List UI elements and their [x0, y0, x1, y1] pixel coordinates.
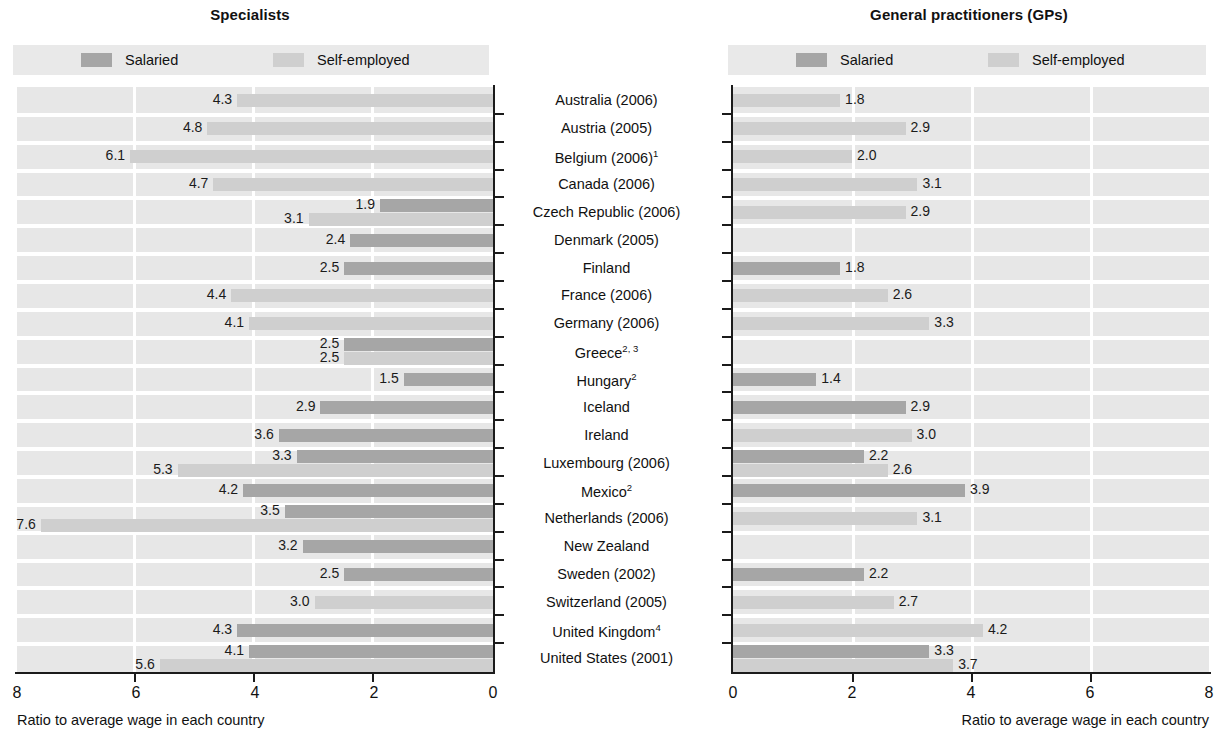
category-tick — [722, 475, 731, 477]
country-label: Finland — [500, 260, 713, 276]
row-separator — [17, 280, 493, 284]
axis-number-0: 0 — [489, 684, 498, 702]
bar-value-label: 4.2 — [988, 623, 1007, 636]
bar-value-label: 3.0 — [917, 428, 936, 441]
bar-self — [733, 464, 888, 477]
axis-tick-4 — [971, 673, 973, 682]
bar-salaried — [297, 450, 493, 463]
axis-number-2: 2 — [370, 684, 379, 702]
country-label: Switzerland (2005) — [500, 594, 713, 610]
bar-value-label: 2.6 — [893, 288, 912, 301]
bar-self — [344, 352, 493, 365]
self-employed-swatch-icon — [988, 53, 1019, 67]
bar-self — [178, 464, 493, 477]
bar-salaried — [733, 450, 864, 463]
category-tick — [722, 308, 731, 310]
bar-self — [733, 206, 906, 219]
category-tick — [722, 196, 731, 198]
axis-number-6: 6 — [132, 684, 141, 702]
bar-salaried — [344, 568, 493, 581]
bar-salaried — [285, 505, 493, 518]
specialists-axis-ticks: 86420 — [17, 684, 493, 704]
bar-value-label: 1.9 — [355, 198, 374, 211]
bar-value-label: 3.7 — [958, 658, 977, 671]
category-tick — [722, 169, 731, 171]
legend-label-salaried: Salaried — [840, 52, 893, 68]
bar-value-label: 3.1 — [922, 177, 941, 190]
bar-salaried — [320, 401, 493, 414]
axis-number-8: 8 — [1205, 684, 1214, 702]
country-footnote-marker: 4 — [655, 622, 660, 633]
gridline-4 — [252, 87, 255, 672]
bar-salaried — [279, 429, 493, 442]
bar-self — [41, 519, 493, 532]
bar-value-label: 4.3 — [213, 623, 232, 636]
bar-salaried — [249, 645, 493, 658]
axis-number-4: 4 — [251, 684, 260, 702]
bar-value-label: 4.3 — [213, 93, 232, 106]
category-tick — [722, 642, 731, 644]
country-label: Ireland — [500, 427, 713, 443]
legend-label-self-employed: Self-employed — [1032, 52, 1125, 68]
category-tick — [722, 364, 731, 366]
bar-value-label: 3.3 — [272, 449, 291, 462]
bar-value-label: 3.3 — [934, 644, 953, 657]
bar-value-label: 2.5 — [320, 351, 339, 364]
bar-value-label: 3.1 — [284, 212, 303, 225]
bar-value-label: 5.6 — [135, 658, 154, 671]
row-separator — [17, 559, 493, 563]
country-label: United Kingdom4 — [500, 622, 713, 640]
bar-value-label: 2.6 — [893, 463, 912, 476]
row-separator — [17, 252, 493, 256]
gridline-6 — [133, 87, 136, 672]
gridline-4 — [971, 87, 974, 672]
legend-label-salaried: Salaried — [125, 52, 178, 68]
category-tick — [722, 531, 731, 533]
bar-salaried — [404, 373, 493, 386]
category-tick — [722, 113, 731, 115]
country-label: Netherlands (2006) — [500, 510, 713, 526]
bar-self — [213, 178, 493, 191]
bar-value-label: 4.2 — [219, 483, 238, 496]
gridline-6 — [1090, 87, 1093, 672]
bar-self — [733, 122, 906, 135]
bar-self — [315, 596, 494, 609]
country-label: France (2006) — [500, 287, 713, 303]
bar-self — [733, 317, 929, 330]
country-footnote-marker: 1 — [653, 148, 658, 159]
category-tick — [722, 586, 731, 588]
bar-salaried — [733, 645, 929, 658]
category-tick — [722, 503, 731, 505]
country-footnote-marker: 2 — [631, 371, 636, 382]
axis-number-4: 4 — [967, 684, 976, 702]
country-label: Australia (2006) — [500, 92, 713, 108]
category-tick — [722, 141, 731, 143]
category-tick — [722, 280, 731, 282]
row-separator — [17, 141, 493, 145]
bar-value-label: 4.1 — [225, 644, 244, 657]
bar-value-label: 1.4 — [821, 372, 840, 385]
bar-value-label: 2.9 — [911, 400, 930, 413]
bar-value-label: 2.5 — [320, 567, 339, 580]
bar-value-label: 3.0 — [290, 595, 309, 608]
category-tick — [722, 224, 731, 226]
bar-value-label: 4.8 — [183, 121, 202, 134]
category-tick — [722, 559, 731, 561]
axis-number-2: 2 — [848, 684, 857, 702]
country-label: Luxembourg (2006) — [500, 455, 713, 471]
bar-salaried — [243, 484, 493, 497]
bar-self — [733, 659, 953, 672]
bar-self — [733, 624, 983, 637]
country-label: New Zealand — [500, 538, 713, 554]
bar-value-label: 5.3 — [153, 463, 172, 476]
specialists-plot-area: 4.34.86.14.71.93.12.42.54.44.12.52.51.52… — [17, 87, 493, 672]
bar-value-label: 2.9 — [911, 205, 930, 218]
gridline-2 — [852, 87, 855, 672]
bar-value-label: 1.8 — [845, 93, 864, 106]
category-tick — [722, 336, 731, 338]
category-tick — [722, 419, 731, 421]
legend-label-self-employed: Self-employed — [317, 52, 410, 68]
country-label: Germany (2006) — [500, 315, 713, 331]
salaried-swatch-icon — [81, 53, 112, 67]
specialists-legend: Salaried Self-employed — [13, 45, 489, 75]
